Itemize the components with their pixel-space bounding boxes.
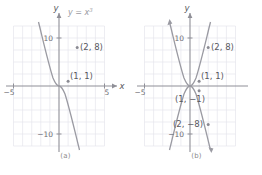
equation-label-a: y = x3 xyxy=(67,7,93,17)
point-marker-2-8-a xyxy=(76,46,79,49)
y-tick-label-minus10-a: −10 xyxy=(37,130,53,139)
plot-area-a: −5 5 10 −10 x y y = x3 (2, 8) (1, 1) xyxy=(0,0,131,158)
point-label-1-minus1-b: (1, −1) xyxy=(175,94,205,104)
equation-base-a: y = x xyxy=(67,8,90,17)
y-tick-label-10-b: 10 xyxy=(174,34,184,43)
point-label-2-minus8-b: (2, −8) xyxy=(173,119,203,129)
equation-exponent-a: 3 xyxy=(89,7,93,13)
y-axis-label-b: y xyxy=(183,3,190,13)
point-label-1-1-a: (1, 1) xyxy=(70,71,93,81)
panel-caption-a: (a) xyxy=(0,152,131,160)
y-axis-arrow-a xyxy=(57,13,62,18)
point-label-2-8-a: (2, 8) xyxy=(80,42,103,52)
x-axis-arrow-a xyxy=(112,84,117,89)
graph-b: −5 10 −10 y (2, 8) (1, 1) (1, −1) (2, −8… xyxy=(131,0,262,158)
x-tick-label-minus5-a: −5 xyxy=(3,88,14,97)
y-axis-label-a: y xyxy=(52,3,59,13)
x-tick-label-minus5-b: −5 xyxy=(134,88,145,97)
point-label-2-8-b: (2, 8) xyxy=(211,42,234,52)
x-axis-label-a: x xyxy=(118,81,125,91)
y-tick-label-minus10-b: −10 xyxy=(168,130,184,139)
graph-a: −5 5 10 −10 x y y = x3 (2, 8) (1, 1) xyxy=(0,0,131,158)
point-marker-2-minus8-b xyxy=(207,123,210,126)
y-axis-arrow-b xyxy=(188,13,193,18)
panel-a: −5 5 10 −10 x y y = x3 (2, 8) (1, 1) (a) xyxy=(0,0,131,175)
curve-arrow-top-b xyxy=(167,19,172,25)
plot-area-b: −5 10 −10 y (2, 8) (1, 1) (1, −1) (2, −8… xyxy=(131,0,262,158)
panel-caption-b: (b) xyxy=(131,152,262,160)
point-marker-2-8-b xyxy=(207,46,210,49)
point-marker-1-minus1-b xyxy=(198,89,201,92)
point-label-1-1-b: (1, 1) xyxy=(201,71,224,81)
figure-container: −5 5 10 −10 x y y = x3 (2, 8) (1, 1) (a) xyxy=(0,0,262,175)
panel-b: −5 10 −10 y (2, 8) (1, 1) (1, −1) (2, −8… xyxy=(131,0,262,175)
x-tick-label-5-a: 5 xyxy=(105,88,110,97)
y-tick-label-10-a: 10 xyxy=(43,34,53,43)
